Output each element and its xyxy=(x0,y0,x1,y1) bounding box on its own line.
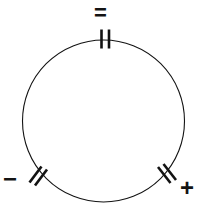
circular-map-diagram: = − + xyxy=(0,0,208,218)
marker-label-top: = xyxy=(94,2,107,24)
chromosome-circle xyxy=(23,40,185,202)
marker-label-right: + xyxy=(180,176,194,200)
tick-group-top xyxy=(102,30,110,49)
marker-label-left: − xyxy=(3,167,17,191)
tick-group-right xyxy=(158,164,176,183)
diagram-canvas xyxy=(0,0,208,218)
